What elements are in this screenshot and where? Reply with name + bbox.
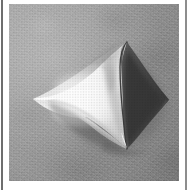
page-gutter-rule-left bbox=[1, 0, 3, 190]
saddle-upper-highlight bbox=[55, 75, 107, 101]
page-gutter-rule-right bbox=[185, 0, 187, 190]
saddle-model-photograph bbox=[9, 4, 179, 181]
photo-page bbox=[0, 0, 189, 190]
photographic-plate bbox=[9, 4, 179, 181]
